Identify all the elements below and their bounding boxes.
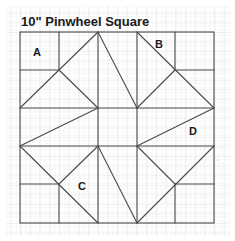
label-d: D xyxy=(189,125,197,137)
label-a: A xyxy=(33,46,41,58)
label-c: C xyxy=(78,180,86,192)
label-b: B xyxy=(155,38,163,50)
stray-mark xyxy=(217,159,218,160)
diagram-title: 10" Pinwheel Square xyxy=(21,14,149,29)
pinwheel-diagram: 10" Pinwheel Square xyxy=(0,0,235,241)
grid-paper xyxy=(6,6,230,236)
